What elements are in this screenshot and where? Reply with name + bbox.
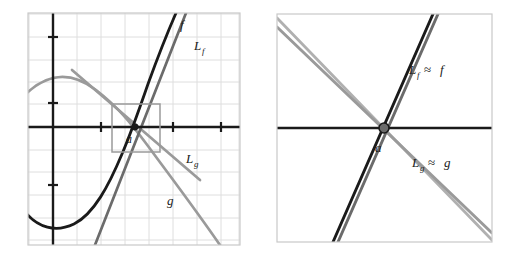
svg-text:≈: ≈	[424, 62, 431, 77]
svg-text:L: L	[411, 155, 419, 170]
svg-text:L: L	[185, 151, 193, 166]
svg-text:L: L	[408, 62, 416, 77]
svg-text:g: g	[444, 155, 451, 170]
label-g-left: g	[167, 193, 174, 208]
label-a-left: a	[126, 132, 132, 146]
svg-text:g: g	[420, 163, 425, 173]
label-a-right: a	[375, 140, 382, 155]
point-a-right	[379, 123, 389, 133]
svg-text:L: L	[193, 38, 201, 53]
two-panel-tangent-line-figure: f L f L g g a	[0, 0, 520, 255]
figure-container: f L f L g g a	[0, 0, 520, 255]
svg-text:g: g	[194, 159, 199, 169]
point-a-left	[132, 124, 139, 131]
svg-text:≈: ≈	[428, 155, 435, 170]
